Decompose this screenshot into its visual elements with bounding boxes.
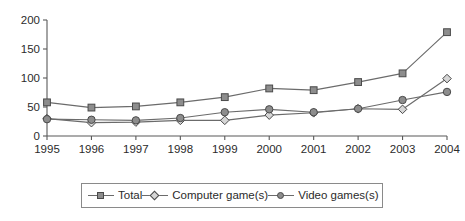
data-point-marker [266, 106, 273, 113]
data-point-marker [443, 74, 452, 83]
y-tick-label: 100 [21, 72, 40, 84]
data-point-marker [88, 104, 95, 111]
series-line-2 [47, 92, 447, 120]
legend-label-total: Total [118, 190, 142, 202]
data-point-marker [132, 117, 139, 124]
x-tick-label: 1999 [212, 143, 238, 155]
x-tick-label: 2003 [390, 143, 416, 155]
x-tick-label: 1995 [34, 143, 60, 155]
data-point-marker [355, 79, 362, 86]
data-point-marker [399, 70, 406, 77]
legend-label-computer-games: Computer game(s) [172, 190, 268, 202]
x-tick-label: 2002 [345, 143, 371, 155]
x-tick-label: 1996 [79, 143, 105, 155]
data-point-marker [354, 105, 361, 112]
x-tick-label: 2001 [301, 143, 327, 155]
x-tick-label: 1997 [123, 143, 149, 155]
data-point-marker [221, 94, 228, 101]
data-point-marker [399, 96, 406, 103]
x-tick-label: 1998 [168, 143, 194, 155]
data-point-marker [444, 29, 451, 36]
y-tick-label: 50 [27, 101, 40, 113]
chart-legend: Total Computer game(s) Video games(s) [81, 183, 383, 208]
x-tick-label: 2000 [256, 143, 282, 155]
data-point-marker [177, 99, 184, 106]
circle-marker-icon [268, 190, 294, 202]
data-point-marker [88, 116, 95, 123]
data-point-marker [221, 109, 228, 116]
data-point-marker [266, 85, 273, 92]
data-point-marker [43, 115, 50, 122]
data-series-group [43, 29, 452, 127]
square-marker-icon [88, 190, 114, 202]
data-point-marker [443, 88, 450, 95]
y-tick-label: 200 [21, 14, 40, 26]
line-chart: 050100150200 199519961997199819992000200… [0, 0, 465, 221]
y-tick-label: 0 [34, 130, 40, 142]
data-point-marker [398, 105, 407, 114]
data-point-marker [220, 116, 229, 125]
legend-label-video-games: Video games(s) [298, 190, 378, 202]
y-axis: 050100150200 [21, 14, 47, 142]
legend-item-total: Total [88, 190, 142, 202]
x-tick-label: 2004 [434, 143, 460, 155]
data-point-marker [177, 114, 184, 121]
series-line-0 [47, 32, 447, 107]
legend-item-computer-games: Computer game(s) [142, 190, 268, 202]
data-point-marker [310, 109, 317, 116]
series-line-1 [47, 79, 447, 123]
diamond-marker-icon [142, 190, 168, 202]
x-axis: 1995199619971998199920002001200220032004 [34, 136, 460, 155]
legend-item-video-games: Video games(s) [268, 190, 378, 202]
data-point-marker [310, 87, 317, 94]
data-point-marker [44, 99, 51, 106]
data-point-marker [132, 103, 139, 110]
y-tick-label: 150 [21, 43, 40, 55]
